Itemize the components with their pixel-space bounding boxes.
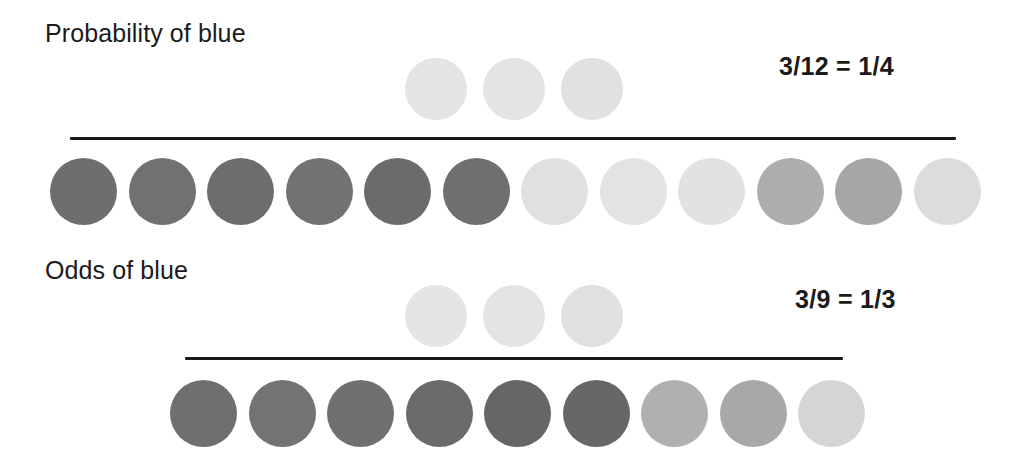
odds-denominator-circle [327, 380, 394, 447]
odds-denominator-circle [641, 380, 708, 447]
diagram-canvas: Probability of blue 3/12 = 1/4 Odds of b… [0, 0, 1011, 476]
odds-denominator-circle [720, 380, 787, 447]
odds-denominator-circle [798, 380, 865, 447]
odds-denominator-circle [170, 380, 237, 447]
odds-denominator-circle [249, 380, 316, 447]
odds-denominator-circle [406, 380, 473, 447]
odds-denominator-row [0, 0, 1011, 476]
odds-denominator-circle [563, 380, 630, 447]
odds-denominator-circle [484, 380, 551, 447]
